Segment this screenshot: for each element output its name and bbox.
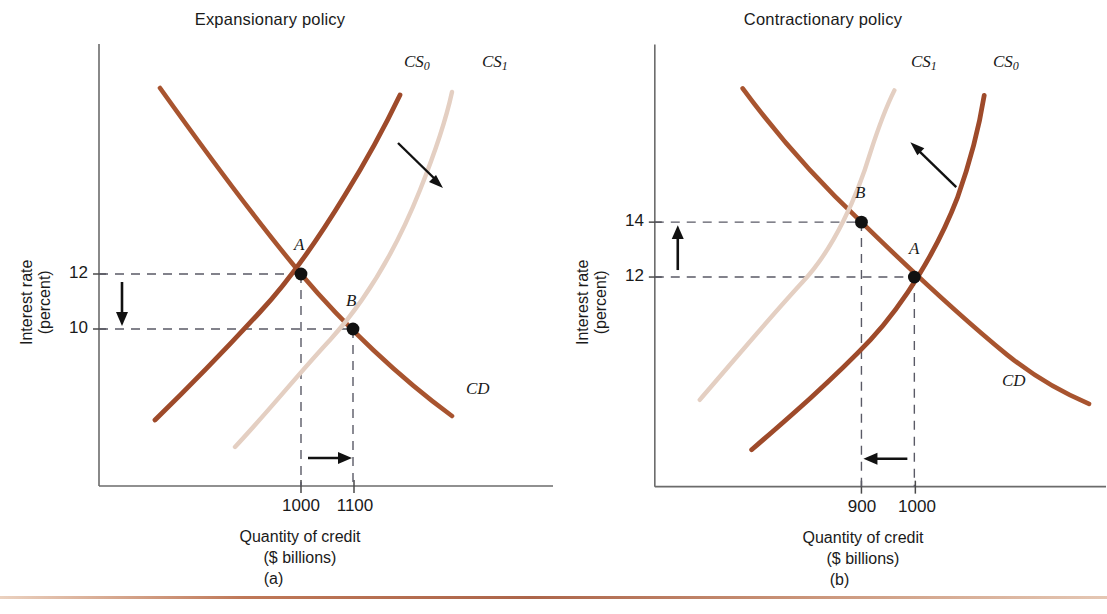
panel-a-point-label-a: A	[294, 235, 304, 255]
panel-a-y-axis-title: Interest rate (percent)	[18, 260, 55, 345]
curve-cs1	[700, 90, 895, 399]
panel-b-y-axis-title: Interest rate (percent)	[574, 260, 611, 345]
panel-b-plot	[553, 0, 1106, 600]
panel-a-x-axis-title-line1: Quantity of credit	[240, 528, 361, 545]
point-b	[855, 216, 868, 229]
rate-change-arrow	[672, 225, 684, 270]
panel-a-y-axis-title-line1: Interest rate	[18, 260, 35, 345]
panel-a-x-axis-title: Quantity of credit ($ billions)	[150, 527, 450, 569]
panel-a-x-axis-title-line2: ($ billions)	[264, 549, 337, 566]
credit-market-figure: Expansionary policy	[0, 0, 1107, 614]
panel-a-y-axis-title-line2: (percent)	[36, 270, 53, 334]
curve-cs0	[752, 95, 985, 449]
panel-b-curve-label-cs1: CS1	[911, 52, 937, 72]
panel-b-curve-label-cd: CD	[1002, 371, 1026, 391]
bottom-divider-rule	[0, 596, 1107, 599]
panel-a-curve-label-cs0: CS0	[404, 52, 430, 72]
panel-b-caption: (b)	[563, 571, 1107, 589]
panel-expansionary-policy: Expansionary policy	[0, 0, 553, 600]
point-b	[347, 323, 360, 336]
panel-b-curve-label-cs0: CS0	[993, 52, 1019, 72]
panel-a-x-tick-label-1100: 1100	[323, 496, 387, 516]
panel-b-x-axis-title-line2: ($ billions)	[827, 550, 900, 567]
panel-b-y-axis-title-line1: Interest rate	[574, 260, 591, 345]
curve-cs1	[235, 92, 452, 447]
supply-shift-arrow	[910, 142, 956, 187]
panel-b-y-tick-label-14: 14	[600, 211, 644, 231]
panel-a-point-label-b: B	[346, 291, 356, 311]
rate-change-arrow	[116, 282, 128, 326]
point-a	[908, 271, 921, 284]
panel-a-curve-label-cs1: CS1	[482, 52, 508, 72]
panel-b-x-axis-title-line1: Quantity of credit	[803, 529, 924, 546]
panel-b-point-label-b: B	[855, 183, 865, 203]
curve-cs0	[155, 95, 400, 420]
panel-b-x-tick-label-900: 900	[833, 497, 891, 517]
panel-b-x-axis-title: Quantity of credit ($ billions)	[713, 528, 1013, 570]
point-a	[295, 268, 308, 281]
panel-a-caption: (a)	[0, 570, 550, 588]
quantity-change-arrow	[308, 452, 352, 464]
panel-a-curve-label-cd: CD	[466, 379, 490, 399]
panel-contractionary-policy: Contractionary policy	[553, 0, 1106, 600]
panel-b-y-axis-title-line2: (percent)	[592, 270, 609, 334]
panel-b-point-label-a: A	[909, 239, 919, 259]
panel-b-x-tick-label-1000: 1000	[886, 497, 948, 517]
quantity-change-arrow	[863, 453, 907, 465]
